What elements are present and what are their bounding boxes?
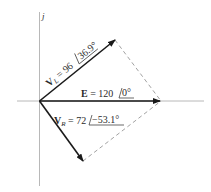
phasor-vl-label: VL = 96 36.9° xyxy=(43,39,101,90)
svg-text:0°: 0° xyxy=(122,87,131,98)
svg-text:E = 120: E = 120 xyxy=(81,88,113,99)
svg-text:VR = 72: VR = 72 xyxy=(54,115,86,128)
phasor-vr-arrow xyxy=(40,101,84,161)
dashed-line-vr-to-e xyxy=(83,101,161,161)
svg-text:36.9°: 36.9° xyxy=(75,39,99,61)
svg-text:−53.1°: −53.1° xyxy=(92,114,119,125)
imaginary-axis-label: j xyxy=(41,11,45,21)
phasor-diagram: j VL = 96 36.9° E = 120 0° VR = 72 −53.1… xyxy=(0,0,211,192)
phasor-e-label: E = 120 0° xyxy=(81,87,134,99)
phasor-vr-label: VR = 72 −53.1° xyxy=(54,114,124,128)
